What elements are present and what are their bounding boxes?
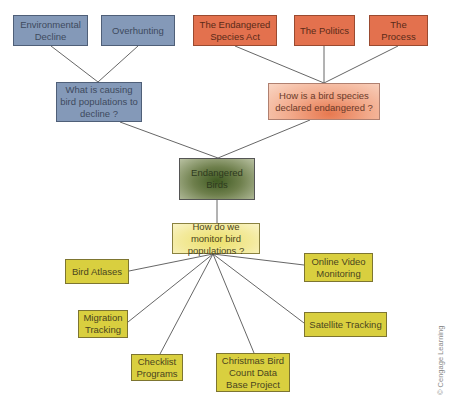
node-declared-question: How is a bird species declared endangere… — [268, 83, 380, 120]
node-label: Bird Atlases — [72, 266, 122, 278]
copyright-notice: © Cengage Learning — [436, 326, 445, 395]
node-label: Overhunting — [112, 25, 164, 37]
connector-lines — [0, 0, 449, 404]
node-monitor-question: How do we monitor bird populations ? — [172, 223, 260, 254]
node-environmental-decline: Environmental Decline — [13, 15, 88, 46]
node-checklist-programs: Checklist Programs — [131, 354, 183, 381]
node-label: Christmas Bird Count Data Base Project — [220, 355, 286, 391]
node-label: The Process — [373, 19, 424, 43]
node-label: Satellite Tracking — [309, 319, 381, 331]
node-online-video-monitoring: Online Video Monitoring — [304, 253, 373, 282]
node-migration-tracking: Migration Tracking — [78, 310, 128, 338]
node-label: Online Video Monitoring — [308, 256, 369, 280]
node-overhunting: Overhunting — [101, 15, 175, 46]
node-label: The Politics — [300, 25, 349, 37]
node-endangered-birds: Endangered Birds — [179, 158, 255, 200]
node-the-process: The Process — [369, 15, 428, 46]
node-christmas-bird-count: Christmas Bird Count Data Base Project — [216, 353, 290, 392]
node-bird-atlases: Bird Atlases — [65, 259, 129, 284]
node-label: Environmental Decline — [17, 19, 84, 43]
node-label: The Endangered Species Act — [197, 19, 273, 43]
node-endangered-species-act: The Endangered Species Act — [193, 15, 277, 46]
node-label: Migration Tracking — [82, 312, 124, 336]
node-label: Checklist Programs — [135, 356, 179, 380]
node-the-politics: The Politics — [294, 15, 355, 46]
node-causes-question: What is causing bird populations to decl… — [56, 82, 142, 122]
node-satellite-tracking: Satellite Tracking — [304, 312, 387, 337]
node-label: Endangered Birds — [183, 167, 251, 191]
node-label: How do we monitor bird populations ? — [176, 221, 256, 257]
node-label: How is a bird species declared endangere… — [272, 90, 376, 114]
node-label: What is causing bird populations to decl… — [60, 84, 138, 120]
